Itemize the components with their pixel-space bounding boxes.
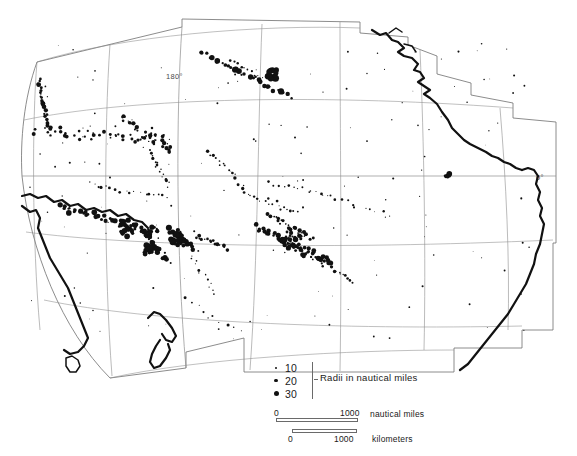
island-dot	[294, 249, 297, 252]
island-dot	[64, 132, 66, 134]
island-dot	[310, 190, 312, 192]
island-dot	[302, 206, 304, 208]
island-dot	[255, 140, 257, 142]
island-dot	[341, 198, 344, 201]
legend-dot-symbol	[268, 367, 284, 369]
legend-tick	[314, 379, 318, 380]
island-dot	[241, 187, 244, 190]
legend-item: 30	[268, 387, 297, 400]
island-dot	[100, 218, 103, 221]
island-dot	[428, 129, 429, 130]
island-dot	[314, 256, 316, 258]
island-dot	[265, 200, 267, 202]
island-dot	[124, 233, 130, 239]
island-dot	[41, 221, 42, 222]
island-dot	[115, 135, 117, 137]
island-dot	[165, 179, 168, 182]
island-dot	[286, 92, 290, 96]
island-dot	[92, 310, 94, 312]
island-dot	[91, 209, 97, 215]
island-dot	[266, 232, 269, 235]
island-dot	[155, 133, 157, 135]
island-dot	[29, 186, 30, 187]
island-dot	[170, 205, 172, 207]
legend-item: 10	[268, 361, 297, 374]
island-dot	[234, 74, 236, 76]
island-dot	[297, 188, 298, 189]
island-dot	[49, 134, 51, 136]
island-dot	[148, 141, 149, 142]
island-dot	[481, 257, 482, 258]
island-dot	[247, 69, 249, 71]
island-dot	[230, 171, 231, 172]
island-dot	[207, 317, 208, 318]
island-dot	[376, 275, 377, 276]
island-dot	[73, 210, 75, 212]
island-dot	[212, 239, 215, 242]
island-dot	[369, 208, 371, 210]
island-dot	[238, 234, 239, 235]
island-dot	[270, 215, 272, 217]
island-dot	[164, 257, 169, 262]
island-dot	[108, 222, 109, 223]
island-dot	[164, 252, 166, 254]
island-dot	[523, 330, 524, 331]
island-dot	[288, 224, 290, 226]
island-dot	[197, 234, 201, 238]
island-dot	[181, 241, 184, 244]
island-dot	[160, 168, 162, 170]
island-dot	[140, 192, 141, 193]
island-dot	[156, 225, 157, 226]
island-dot	[223, 190, 224, 191]
island-dot	[109, 133, 112, 136]
island-dot	[300, 152, 302, 154]
island-dot	[212, 154, 215, 157]
island-dot	[254, 75, 256, 77]
island-dot	[68, 207, 70, 209]
island-dot	[485, 145, 486, 146]
island-dot	[285, 223, 286, 224]
island-dot	[124, 223, 127, 226]
island-dot	[233, 338, 234, 339]
island-dot	[253, 138, 255, 140]
island-dot	[191, 302, 193, 304]
island-dot	[339, 272, 341, 274]
island-dot	[294, 137, 296, 139]
island-dot	[121, 116, 124, 119]
island-dot	[200, 238, 203, 241]
island-dot	[167, 143, 168, 144]
island-dot	[191, 258, 193, 260]
island-dot	[153, 226, 156, 229]
island-dot	[219, 164, 221, 166]
island-dot	[128, 120, 129, 121]
island-dot	[119, 230, 123, 234]
island-dot	[136, 138, 139, 141]
island-dot	[281, 219, 284, 222]
kilometers-scale-max: 1000	[334, 434, 354, 444]
island-dot	[193, 230, 195, 232]
island-dot	[169, 139, 170, 140]
island-dot	[256, 69, 257, 70]
island-dot	[167, 150, 171, 154]
island-dot	[302, 179, 304, 181]
island-dot	[481, 43, 483, 45]
island-dot	[306, 252, 307, 253]
island-dot	[92, 133, 96, 137]
island-dot	[292, 245, 296, 249]
island-dot	[104, 219, 108, 223]
island-dot	[179, 231, 181, 233]
island-dot	[170, 262, 172, 264]
island-dot	[347, 199, 349, 201]
island-dot	[201, 163, 202, 164]
island-dot	[157, 237, 159, 239]
island-dot	[132, 119, 133, 120]
island-dot	[31, 300, 32, 301]
island-dot	[118, 191, 121, 194]
island-dot	[233, 327, 235, 329]
island-dot	[78, 130, 81, 133]
island-dot	[286, 231, 289, 234]
island-dot	[347, 235, 348, 236]
island-dot	[218, 87, 219, 88]
island-dot	[273, 233, 275, 235]
island-dot	[209, 154, 211, 156]
